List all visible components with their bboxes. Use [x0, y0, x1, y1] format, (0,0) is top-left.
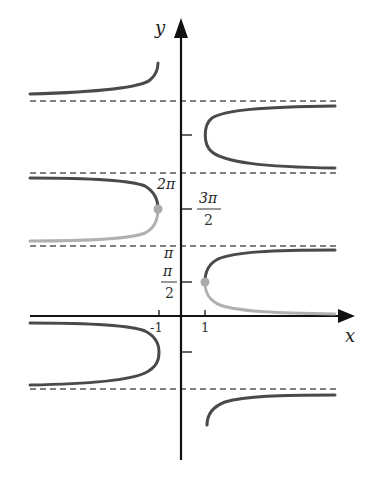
y-tick-label-2pi: 2π — [156, 176, 176, 192]
curve-bottom-right — [207, 395, 335, 425]
curves — [30, 63, 335, 425]
point-neg1-3pi-half — [154, 205, 163, 214]
y-tick-label-pi-half-num: π — [162, 263, 173, 279]
x-axis-arrow-icon — [338, 309, 355, 323]
curve-middle-left-dark — [30, 178, 158, 209]
x-tick-label-1: 1 — [201, 320, 209, 335]
curve-top-left — [30, 63, 158, 94]
curve-bottom-left — [30, 323, 159, 385]
point-1-pi-half — [201, 278, 210, 287]
y-tick-label-pi: π — [163, 245, 174, 261]
y-tick-label-3pi-half-den: 2 — [204, 212, 213, 228]
curve-middle-left-light — [30, 209, 158, 241]
asymptote-lines — [30, 101, 337, 389]
curve-lower-right-light — [205, 282, 335, 314]
y-tick-label-3pi-half-num: 3π — [199, 190, 218, 206]
x-axis-label: x — [345, 325, 355, 346]
curve-upper-right — [205, 106, 335, 168]
y-tick-label-pi-half-den: 2 — [165, 285, 174, 301]
x-tick-label-neg1: -1 — [150, 320, 163, 335]
arc-function-graph: y x -1 1 π 2 π 3π 2 2π — [0, 0, 377, 489]
y-axis-arrow-icon — [174, 18, 188, 38]
y-axis-label: y — [154, 17, 166, 38]
curve-lower-right-dark — [205, 250, 335, 282]
